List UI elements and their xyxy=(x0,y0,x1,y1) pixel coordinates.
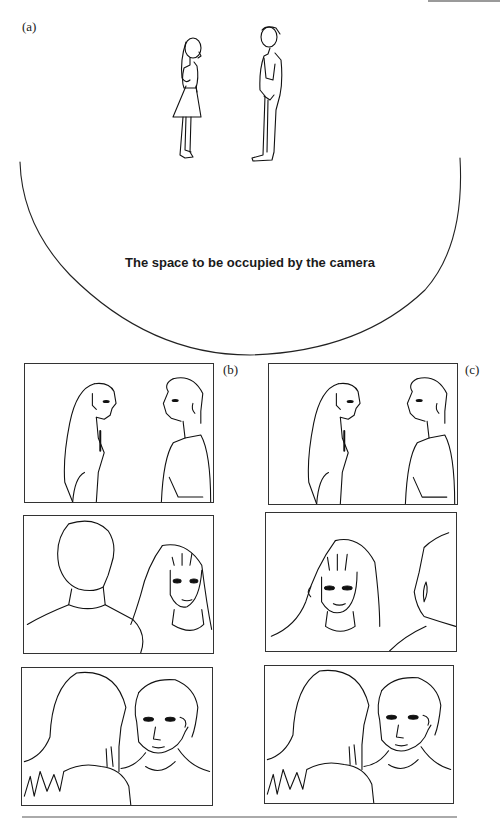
man-back-of-head-icon xyxy=(27,521,143,653)
frame-b1-two-shot xyxy=(24,363,214,503)
frame-b2-over-shoulder-woman xyxy=(23,515,214,654)
panel-label-b: (b) xyxy=(223,362,238,378)
man-profile-icon xyxy=(405,378,454,504)
staging-diagram xyxy=(0,0,500,360)
frame-c2-over-shoulder-crossed xyxy=(265,512,457,652)
man-front-icon xyxy=(364,678,451,770)
camera-space-caption: The space to be occupied by the camera xyxy=(0,255,500,270)
panel-label-c: (c) xyxy=(465,362,479,378)
frame-c3-over-shoulder-man xyxy=(264,665,454,804)
man-back-of-head-icon xyxy=(390,533,456,651)
frame-b3-over-shoulder-man xyxy=(21,667,213,806)
woman-profile-icon xyxy=(64,383,116,502)
woman-front-icon xyxy=(131,545,212,631)
man-figure-icon xyxy=(252,27,282,161)
woman-figure-icon xyxy=(173,38,201,158)
woman-back-of-head-icon xyxy=(24,672,130,805)
man-profile-icon xyxy=(161,378,210,502)
woman-front-icon xyxy=(271,540,379,637)
woman-back-of-head-icon xyxy=(267,670,373,803)
page-footer-rule xyxy=(22,816,457,818)
man-front-icon xyxy=(121,680,210,772)
frame-c1-two-shot xyxy=(268,363,458,505)
woman-profile-icon xyxy=(308,383,360,504)
